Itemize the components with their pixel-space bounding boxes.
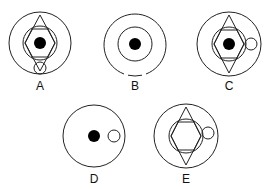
inner-circle bbox=[169, 119, 203, 153]
option-label-b: B bbox=[131, 80, 139, 92]
small-circle bbox=[34, 62, 46, 74]
option-label-a: A bbox=[36, 80, 44, 92]
black-dot bbox=[88, 130, 100, 142]
black-dot bbox=[34, 37, 46, 49]
black-dot bbox=[223, 38, 235, 50]
outer-circle bbox=[154, 104, 218, 168]
small-circle bbox=[202, 127, 214, 139]
option-b-symbol bbox=[104, 14, 166, 76]
option-d-symbol bbox=[63, 105, 125, 167]
option-c-symbol bbox=[197, 12, 261, 76]
option-label-e: E bbox=[182, 173, 190, 185]
option-a-symbol bbox=[9, 12, 71, 74]
option-label-c: C bbox=[225, 80, 234, 92]
black-dot bbox=[129, 38, 141, 50]
hexagon bbox=[171, 122, 201, 150]
small-circle bbox=[108, 130, 120, 142]
option-label-d: D bbox=[90, 173, 99, 185]
option-e-symbol bbox=[154, 104, 218, 168]
figure-canvas bbox=[0, 0, 265, 189]
outer-circle-segment bbox=[128, 75, 142, 76]
diamond bbox=[171, 107, 201, 165]
small-circle bbox=[245, 38, 257, 50]
